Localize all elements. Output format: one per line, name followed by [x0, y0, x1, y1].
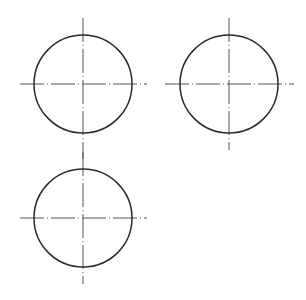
shapes-layer	[20, 18, 294, 284]
circle-1	[20, 18, 147, 159]
circle-2	[165, 18, 294, 150]
drawing-canvas	[0, 0, 306, 300]
circle-3	[20, 152, 147, 284]
